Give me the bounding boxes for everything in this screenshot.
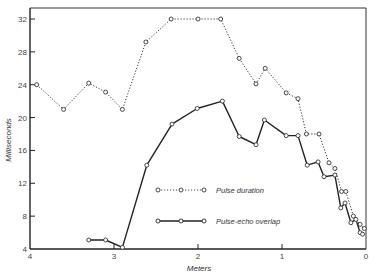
series-layer bbox=[35, 17, 367, 249]
y-tick-label: 24 bbox=[18, 81, 27, 90]
data-point-marker bbox=[195, 107, 199, 111]
y-axis-title: Milliseconds bbox=[4, 118, 13, 162]
y-tick-label: 12 bbox=[18, 179, 27, 188]
x-tick-label: 1 bbox=[280, 252, 285, 261]
y-tick-label: 28 bbox=[18, 48, 27, 57]
data-point-marker bbox=[284, 134, 288, 138]
data-point-marker bbox=[237, 135, 241, 139]
data-point-marker bbox=[333, 173, 337, 177]
legend-item-pulse-duration: Pulse duration bbox=[156, 186, 264, 195]
data-point-marker bbox=[120, 107, 124, 111]
data-point-marker bbox=[104, 238, 108, 242]
y-tick-label: 16 bbox=[18, 146, 27, 155]
data-point-marker bbox=[254, 82, 258, 86]
data-point-marker bbox=[296, 134, 300, 138]
x-axis-ticks: 43210 bbox=[28, 244, 369, 261]
data-point-marker bbox=[219, 17, 223, 21]
data-point-marker bbox=[145, 163, 149, 167]
data-point-marker bbox=[35, 83, 39, 87]
series-pulse-echo-overlap bbox=[87, 99, 365, 249]
data-point-marker bbox=[362, 227, 366, 231]
data-point-marker bbox=[316, 160, 320, 164]
data-point-marker bbox=[305, 163, 309, 167]
data-point-marker bbox=[339, 206, 343, 210]
data-point-marker bbox=[262, 118, 266, 122]
data-point-marker bbox=[284, 91, 288, 95]
y-tick-label: 8 bbox=[23, 212, 28, 221]
data-point-marker bbox=[120, 245, 124, 249]
x-axis-title: Meters bbox=[187, 264, 211, 273]
data-point-marker bbox=[170, 122, 174, 126]
data-point-marker bbox=[354, 217, 358, 221]
series-pulse-duration bbox=[35, 17, 367, 231]
data-point-marker bbox=[344, 190, 348, 194]
data-point-marker bbox=[104, 90, 108, 94]
data-point-marker bbox=[317, 132, 321, 136]
data-point-marker bbox=[144, 40, 148, 44]
data-point-marker bbox=[304, 132, 308, 136]
x-tick-label: 0 bbox=[364, 252, 369, 261]
data-point-marker bbox=[196, 17, 200, 21]
plot-frame bbox=[30, 8, 366, 249]
data-point-marker bbox=[343, 201, 347, 205]
data-point-marker bbox=[87, 238, 91, 242]
data-point-marker bbox=[327, 161, 331, 165]
x-tick-label: 2 bbox=[196, 252, 201, 261]
data-point-marker bbox=[361, 232, 365, 236]
x-tick-label: 3 bbox=[112, 252, 117, 261]
data-point-marker bbox=[349, 221, 353, 225]
data-point-marker bbox=[237, 56, 241, 60]
y-axis-ticks: 48121620242832 bbox=[18, 15, 35, 254]
y-tick-label: 20 bbox=[18, 114, 27, 123]
data-point-marker bbox=[358, 222, 362, 226]
legend-label-pulse-echo-overlap: Pulse-echo overlap bbox=[216, 217, 280, 226]
x-tick-label: 4 bbox=[28, 252, 33, 261]
data-point-marker bbox=[62, 107, 66, 111]
data-point-marker bbox=[322, 175, 326, 179]
legend-item-pulse-echo-overlap: Pulse-echo overlap bbox=[156, 217, 280, 226]
data-point-marker bbox=[87, 81, 91, 85]
data-point-marker bbox=[220, 99, 224, 103]
data-point-marker bbox=[263, 66, 267, 70]
data-point-marker bbox=[333, 167, 337, 171]
data-point-marker bbox=[296, 97, 300, 101]
data-point-marker bbox=[254, 143, 258, 147]
y-tick-label: 32 bbox=[18, 15, 27, 24]
data-point-marker bbox=[340, 190, 344, 194]
data-point-marker bbox=[169, 17, 173, 21]
legend: Pulse duration Pulse-echo overlap bbox=[156, 186, 280, 226]
chart: 48121620242832 43210 Milliseconds Meters… bbox=[0, 0, 376, 278]
legend-label-pulse-duration: Pulse duration bbox=[216, 186, 264, 195]
